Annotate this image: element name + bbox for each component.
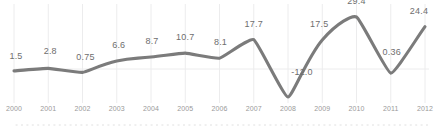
value-label-2006: 8.1	[214, 37, 227, 47]
x-tick-2008: 2008	[280, 105, 296, 112]
x-tick-2011: 2011	[383, 105, 398, 112]
x-tick-2005: 2005	[177, 105, 193, 112]
x-tick-2001: 2001	[40, 105, 56, 112]
line-chart: 1.52.80.756.68.710.78.117.7-12.017.529.4…	[0, 0, 443, 137]
x-tick-2002: 2002	[75, 105, 91, 112]
value-label-2005: 10.7	[176, 32, 194, 42]
x-tick-2003: 2003	[109, 105, 125, 112]
x-tick-2010: 2010	[349, 105, 365, 112]
x-tick-2006: 2006	[212, 105, 228, 112]
value-label-2009: 17.5	[310, 19, 328, 29]
value-label-2002: 0.75	[76, 52, 94, 62]
x-tick-2007: 2007	[246, 105, 262, 112]
value-label-2011: 0.36	[383, 47, 401, 57]
value-label-2000: 1.5	[9, 51, 22, 61]
value-label-2007: 17.7	[245, 19, 263, 29]
x-tick-2009: 2009	[314, 105, 330, 112]
x-tick-2004: 2004	[143, 105, 159, 112]
chart-canvas	[0, 0, 443, 137]
value-label-2003: 6.6	[112, 40, 125, 50]
value-label-2012: 24.4	[410, 6, 428, 16]
x-tick-2000: 2000	[6, 105, 22, 112]
value-label-2008: -12.0	[291, 67, 313, 77]
value-label-2001: 2.8	[44, 46, 57, 56]
x-tick-2012: 2012	[417, 105, 433, 112]
value-label-2010: 29.4	[347, 0, 365, 6]
value-label-2004: 8.7	[145, 36, 158, 46]
